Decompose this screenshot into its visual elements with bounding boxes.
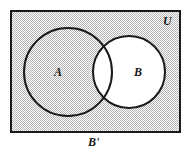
set-a-label: A — [54, 66, 62, 78]
b-complement-shading — [11, 11, 180, 132]
b-complement-label: B' — [88, 136, 99, 148]
universe-label: U — [163, 15, 172, 27]
set-b-label: B — [134, 66, 142, 78]
venn-diagram-figure: U A B B' — [0, 0, 193, 154]
